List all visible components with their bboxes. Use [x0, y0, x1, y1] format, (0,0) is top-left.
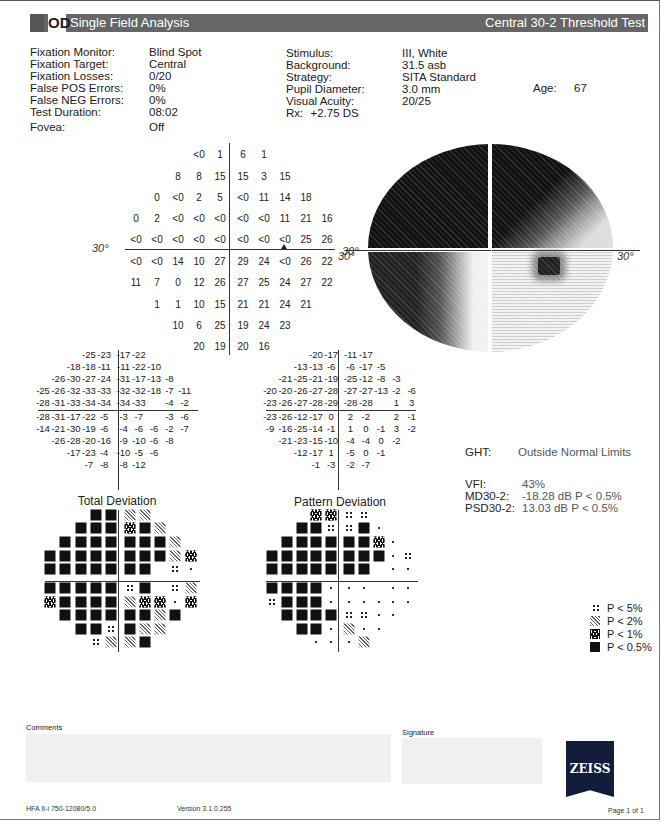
deviation-value: -1 — [407, 412, 415, 422]
pattern-deviation-axis-horizontal — [266, 410, 416, 411]
zeiss-logo: ZEISS — [566, 741, 614, 797]
deviation-value: -28 — [36, 398, 50, 408]
p05-symbol-icon — [311, 537, 322, 548]
deviation-value: -25 — [294, 374, 308, 384]
p05-symbol-icon — [155, 537, 166, 548]
deviation-value: -28 — [324, 386, 338, 396]
deviation-value: -18 — [82, 362, 96, 372]
info-label: Background: — [286, 59, 351, 71]
threshold-value: 25 — [300, 235, 311, 245]
deviation-value: -29 — [324, 398, 338, 408]
deviation-value: -11 — [344, 350, 357, 360]
threshold-value: 8 — [196, 172, 202, 182]
comments-field[interactable] — [26, 734, 391, 782]
info-row-fixation-monitor: Fixation Monitor:Blind Spot — [30, 46, 290, 58]
deviation-value: -8 — [377, 374, 385, 384]
p05-symbol-icon — [139, 537, 150, 548]
p1-symbol-icon — [311, 510, 322, 521]
deviation-value: -22 — [82, 412, 96, 422]
deviation-value: -6 — [150, 448, 158, 458]
p5-symbol-icon — [92, 638, 100, 646]
p05-symbol-icon — [90, 597, 101, 608]
p05-symbol-icon — [139, 523, 150, 534]
axis-label-left: 30° — [92, 242, 109, 254]
comments-label: Comments — [26, 723, 62, 732]
threshold-value: 22 — [321, 278, 332, 288]
p1-symbol-icon — [139, 597, 150, 608]
p5-symbol-icon — [592, 604, 600, 612]
deviation-value: -5 — [135, 448, 143, 458]
info-label: False POS Errors: — [30, 82, 123, 94]
deviation-value: -23 — [82, 448, 96, 458]
threshold-value: 12 — [193, 278, 204, 288]
deviation-value: 0 — [363, 448, 368, 458]
deviation-value: -12 — [132, 460, 146, 470]
threshold-value: <0 — [214, 235, 225, 245]
deviation-value: -23 — [263, 398, 277, 408]
deviation-value: -27 — [309, 386, 323, 396]
deviation-value: -32 — [67, 386, 81, 396]
p05-symbol-icon — [124, 551, 135, 562]
deviation-value: -19 — [82, 424, 96, 434]
info-row-false-pos: False POS Errors:0% — [30, 82, 290, 94]
p05-symbol-icon — [281, 583, 292, 594]
deviation-value: -2 — [392, 386, 400, 396]
p05-symbol-icon — [45, 564, 56, 575]
deviation-value: -24 — [97, 374, 111, 384]
deviation-value: -25 — [294, 424, 308, 434]
deviation-value: -26 — [51, 374, 65, 384]
blank-symbol-icon — [155, 583, 166, 594]
p05-symbol-icon — [60, 583, 71, 594]
deviation-value: -33 — [97, 386, 111, 396]
deviation-value: -20 — [278, 386, 292, 396]
deviation-value: -33 — [132, 398, 146, 408]
deviation-value: -14 — [36, 424, 50, 434]
age-label: Age: — [533, 82, 557, 94]
p5-symbol-icon — [171, 584, 179, 592]
p2-symbol-icon — [139, 624, 150, 635]
p05-symbol-icon — [45, 583, 56, 594]
deviation-value: -7 — [362, 460, 370, 470]
p05-symbol-icon — [45, 551, 56, 562]
info-value: 0/20 — [149, 70, 171, 82]
signature-label: Signature — [402, 728, 434, 737]
p2-symbol-icon — [185, 583, 196, 594]
p05-symbol-icon — [296, 610, 307, 621]
p5-symbol-icon — [268, 598, 276, 606]
deviation-value: -13 — [374, 386, 388, 396]
deviation-value: -26 — [278, 412, 292, 422]
p05-symbol-icon — [170, 610, 181, 621]
p05-symbol-icon — [296, 583, 307, 594]
p05-symbol-icon — [75, 583, 86, 594]
p05-symbol-icon — [281, 551, 292, 562]
deviation-value: 1 — [329, 448, 334, 458]
info-row-false-neg: False NEG Errors:0% — [30, 94, 290, 106]
deviation-value: -21 — [51, 424, 65, 434]
p05-symbol-icon — [124, 537, 135, 548]
test-name: Central 30-2 Threshold Test — [485, 14, 645, 32]
deviation-value: -4 — [165, 398, 173, 408]
p05-symbol-icon — [90, 537, 101, 548]
dot-symbol-icon — [330, 628, 332, 630]
report-title: Single Field Analysis — [70, 14, 189, 32]
dot-symbol-icon — [174, 601, 176, 603]
threshold-value: 21 — [258, 300, 269, 310]
deviation-value: -5 — [100, 412, 108, 422]
deviation-value: -7 — [85, 460, 93, 470]
threshold-value: 6 — [196, 321, 202, 331]
deviation-value: -1 — [377, 448, 385, 458]
deviation-value: -25 — [36, 386, 50, 396]
info-label: Visual Acuity: — [286, 95, 354, 107]
deviation-value: -13 — [309, 362, 323, 372]
ght-label: GHT: — [465, 446, 491, 458]
deviation-value: -17 — [359, 350, 373, 360]
deviation-value: -6 — [180, 412, 188, 422]
md-label: MD30-2: — [465, 490, 509, 502]
info-value: 31.5 asb — [402, 59, 446, 71]
threshold-value: <0 — [193, 235, 204, 245]
p05-symbol-icon — [90, 564, 101, 575]
deviation-value: -7 — [165, 386, 173, 396]
signature-field[interactable] — [402, 738, 542, 784]
deviation-value: -22 — [132, 362, 146, 372]
info-row-rx: Rx: +2.75 DS — [286, 107, 546, 119]
